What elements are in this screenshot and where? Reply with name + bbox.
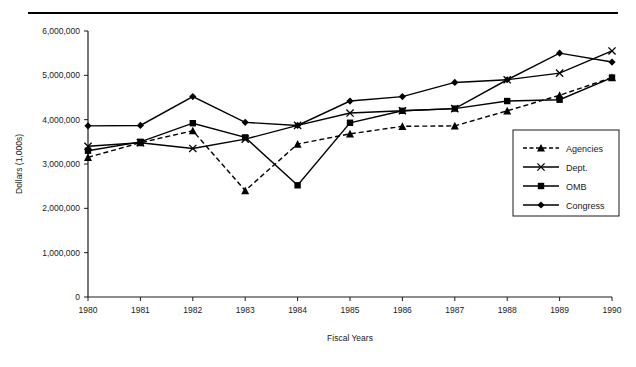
data-point-triangle-marker (241, 187, 249, 195)
line-chart: 01,000,0002,000,0003,000,0004,000,0005,0… (0, 0, 636, 367)
y-tick-label: 5,000,000 (42, 70, 80, 80)
chart-legend: AgenciesDept.OMBCongress (513, 130, 619, 216)
y-tick-label: 3,000,000 (42, 159, 80, 169)
data-point-diamond-marker (608, 58, 615, 65)
series-congress (84, 50, 615, 130)
data-point-diamond-marker (189, 93, 196, 100)
x-tick-label: 1987 (445, 305, 464, 315)
legend-label-agencies: Agencies (566, 144, 604, 154)
data-point-diamond-marker (137, 122, 144, 129)
y-tick-label: 0 (75, 292, 80, 302)
data-point-square-marker (294, 182, 300, 188)
x-tick-label: 1985 (341, 305, 360, 315)
data-point-diamond-marker (399, 93, 406, 100)
y-tick-label: 6,000,000 (42, 26, 80, 36)
data-point-square-marker (452, 105, 458, 111)
legend-label-omb: OMB (566, 182, 587, 192)
x-tick-label: 1983 (236, 305, 255, 315)
data-point-square-marker (137, 139, 143, 145)
x-axis-ticks: 1980198119821983198419851986198719881989… (79, 297, 622, 315)
data-point-square-marker (609, 74, 615, 80)
data-point-square-marker (504, 98, 510, 104)
data-point-square-marker (85, 148, 91, 154)
y-tick-label: 1,000,000 (42, 248, 80, 258)
data-point-square-marker (347, 120, 353, 126)
data-point-triangle-marker (189, 127, 197, 135)
x-tick-label: 1988 (498, 305, 517, 315)
data-point-diamond-marker (84, 122, 91, 129)
legend-label-congress: Congress (566, 201, 605, 211)
x-tick-label: 1989 (550, 305, 569, 315)
y-tick-label: 4,000,000 (42, 115, 80, 125)
x-tick-label: 1984 (288, 305, 307, 315)
series-line (88, 53, 612, 126)
data-point-square-marker (242, 134, 248, 140)
data-point-square-marker (538, 183, 544, 189)
data-point-diamond-marker (346, 97, 353, 104)
data-point-diamond-marker (451, 79, 458, 86)
data-point-square-marker (556, 97, 562, 103)
data-point-diamond-marker (242, 119, 249, 126)
x-tick-label: 1981 (131, 305, 150, 315)
legend-label-dept: Dept. (566, 163, 588, 173)
x-tick-label: 1986 (393, 305, 412, 315)
x-axis-title: Fiscal Years (327, 333, 373, 343)
y-axis-title: Dollars (1,000s) (14, 134, 24, 194)
y-axis-ticks: 01,000,0002,000,0003,000,0004,000,0005,0… (42, 26, 88, 302)
x-tick-label: 1980 (79, 305, 98, 315)
data-point-square-marker (190, 120, 196, 126)
x-tick-label: 1982 (183, 305, 202, 315)
x-tick-label: 1990 (603, 305, 622, 315)
data-point-diamond-marker (556, 50, 563, 57)
data-point-square-marker (399, 108, 405, 114)
y-tick-label: 2,000,000 (42, 203, 80, 213)
data-point-x-marker (608, 47, 615, 54)
chart-svg: 01,000,0002,000,0003,000,0004,000,0005,0… (0, 0, 636, 367)
